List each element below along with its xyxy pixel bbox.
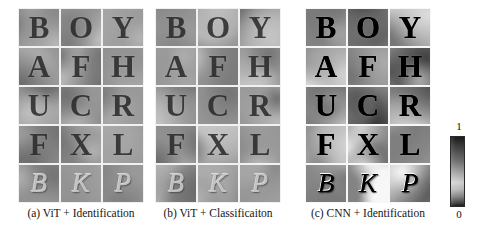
letter-attention-cell: B (155, 8, 197, 47)
letter-glyph: R (103, 87, 143, 124)
letter-attention-cell: L (389, 125, 431, 164)
letter-attention-cell: H (102, 47, 144, 86)
letter-glyph: Y (240, 9, 280, 46)
letter-glyph: L (390, 126, 430, 163)
letter-glyph: P (390, 165, 430, 202)
letter-attention-cell: C (60, 86, 102, 125)
letter-glyph: K (198, 165, 238, 202)
letter-glyph: A (306, 48, 346, 85)
letter-glyph: H (103, 48, 143, 85)
letter-attention-cell: R (239, 86, 281, 125)
letter-glyph: K (61, 165, 101, 202)
letter-glyph: B (306, 165, 346, 202)
letter-attention-cell: B (18, 8, 60, 47)
letter-glyph: L (240, 126, 280, 163)
letter-glyph: F (156, 126, 196, 163)
letter-attention-cell: F (60, 47, 102, 86)
letter-attention-cell: U (18, 86, 60, 125)
letter-attention-cell: A (155, 47, 197, 86)
letter-glyph: R (390, 87, 430, 124)
letter-glyph: O (198, 9, 238, 46)
letter-attention-cell: C (347, 86, 389, 125)
letter-glyph: X (61, 126, 101, 163)
letter-glyph: Y (103, 9, 143, 46)
letter-attention-cell: R (389, 86, 431, 125)
letter-glyph: B (156, 165, 196, 202)
letter-glyph: U (306, 87, 346, 124)
letter-attention-cell: F (305, 125, 347, 164)
colorbar-gradient (450, 136, 465, 207)
colorbar-sheen (451, 137, 464, 206)
letter-attention-cell: C (197, 86, 239, 125)
letter-glyph: L (103, 126, 143, 163)
letter-glyph: H (390, 48, 430, 85)
letter-image-grid: BOYAFHUCRFXLBKP (155, 8, 281, 203)
letter-glyph: B (19, 165, 59, 202)
letter-glyph: O (61, 9, 101, 46)
letter-attention-cell: K (347, 164, 389, 203)
letter-attention-cell: H (239, 47, 281, 86)
letter-attention-cell: R (102, 86, 144, 125)
letter-glyph: F (198, 48, 238, 85)
panel-cnn-identification: BOYAFHUCRFXLBKP (305, 8, 431, 203)
letter-attention-cell: X (197, 125, 239, 164)
letter-attention-cell: P (389, 164, 431, 203)
letter-glyph: K (348, 165, 388, 202)
letter-attention-cell: P (102, 164, 144, 203)
letter-glyph: C (348, 87, 388, 124)
letter-glyph: A (156, 48, 196, 85)
letter-attention-cell: B (305, 164, 347, 203)
letter-glyph: F (19, 126, 59, 163)
letter-glyph: Y (390, 9, 430, 46)
letter-attention-cell: Y (102, 8, 144, 47)
letter-glyph: F (306, 126, 346, 163)
letter-attention-cell: X (60, 125, 102, 164)
letter-glyph: F (61, 48, 101, 85)
letter-attention-cell: L (102, 125, 144, 164)
letter-glyph: F (348, 48, 388, 85)
letter-glyph: P (240, 165, 280, 202)
letter-glyph: U (19, 87, 59, 124)
panel-caption-c: (c) CNN + Identification (305, 206, 431, 220)
letter-attention-cell: Y (389, 8, 431, 47)
letter-image-grid: BOYAFHUCRFXLBKP (305, 8, 431, 203)
letter-attention-cell: L (239, 125, 281, 164)
attention-map-figure: BOYAFHUCRFXLBKP (a) ViT + Identification… (0, 0, 477, 243)
letter-attention-cell: F (18, 125, 60, 164)
letter-attention-cell: O (347, 8, 389, 47)
letter-attention-cell: O (197, 8, 239, 47)
letter-attention-cell: F (155, 125, 197, 164)
letter-attention-cell: B (305, 8, 347, 47)
letter-glyph: C (61, 87, 101, 124)
letter-attention-cell: A (305, 47, 347, 86)
letter-attention-cell: B (155, 164, 197, 203)
letter-glyph: U (156, 87, 196, 124)
letter-attention-cell: H (389, 47, 431, 86)
letter-attention-cell: F (197, 47, 239, 86)
letter-attention-cell: X (347, 125, 389, 164)
letter-attention-cell: U (155, 86, 197, 125)
letter-glyph: A (19, 48, 59, 85)
letter-attention-cell: K (60, 164, 102, 203)
letter-glyph: C (198, 87, 238, 124)
letter-glyph: H (240, 48, 280, 85)
letter-attention-cell: O (60, 8, 102, 47)
letter-glyph: R (240, 87, 280, 124)
panel-caption-a: (a) ViT + Identification (18, 206, 144, 220)
letter-glyph: B (19, 9, 59, 46)
letter-attention-cell: A (18, 47, 60, 86)
panel-vit-classification: BOYAFHUCRFXLBKP (155, 8, 281, 203)
colorbar-max-label: 1 (446, 120, 472, 132)
letter-attention-cell: P (239, 164, 281, 203)
colorbar-min-label: 0 (446, 208, 472, 220)
letter-glyph: O (348, 9, 388, 46)
letter-attention-cell: U (305, 86, 347, 125)
letter-attention-cell: B (18, 164, 60, 203)
panel-caption-b: (b) ViT + Classificaiton (155, 206, 281, 220)
attention-intensity-colorbar: 1 0 (446, 122, 472, 222)
letter-glyph: B (306, 9, 346, 46)
letter-attention-cell: K (197, 164, 239, 203)
letter-attention-cell: Y (239, 8, 281, 47)
letter-image-grid: BOYAFHUCRFXLBKP (18, 8, 144, 203)
letter-glyph: P (103, 165, 143, 202)
